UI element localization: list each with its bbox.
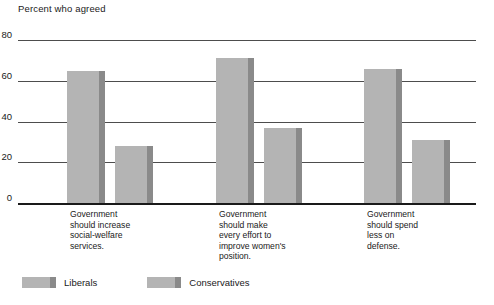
legend-swatch-liberals: [22, 277, 56, 288]
category-label-2: Government should spend less on defense.: [367, 209, 418, 251]
legend-item-conservatives: Conservatives: [147, 277, 249, 288]
category-label-1: Government should make every effort to i…: [219, 209, 286, 262]
y-axis-tick-20: 20: [1, 151, 12, 162]
category-label-0: Government should increase social-welfar…: [70, 209, 130, 251]
bar-conservatives-0: [115, 146, 153, 203]
chart-legend: Liberals Conservatives: [22, 277, 249, 288]
chart-title: Percent who agreed: [18, 3, 106, 14]
bar-chart: Percent who agreed 80 60 40 20 0 Governm…: [0, 0, 494, 305]
legend-item-liberals: Liberals: [22, 277, 97, 288]
y-axis-tick-60: 60: [1, 70, 12, 81]
bar-conservatives-2: [412, 140, 450, 203]
plot-area: 80 60 40 20 0: [18, 40, 476, 203]
bar-liberals-2: [364, 69, 402, 203]
y-axis-tick-40: 40: [1, 111, 12, 122]
legend-label-conservatives: Conservatives: [189, 277, 249, 288]
legend-label-liberals: Liberals: [64, 277, 97, 288]
gridline-80: 80: [18, 40, 476, 41]
legend-swatch-conservatives: [147, 277, 181, 288]
bar-liberals-0: [67, 71, 105, 203]
y-axis-tick-0: 0: [7, 192, 12, 203]
bar-liberals-1: [216, 58, 254, 203]
axis-baseline: 0: [18, 203, 476, 205]
bar-conservatives-1: [264, 128, 302, 203]
y-axis-tick-80: 80: [1, 29, 12, 40]
